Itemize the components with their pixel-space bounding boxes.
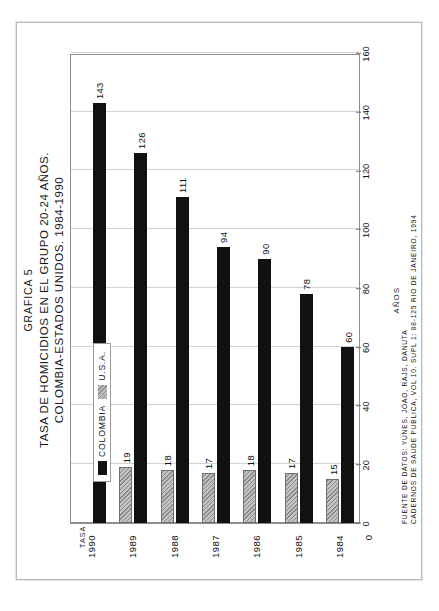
category-tick-1984: 1984 <box>334 535 345 558</box>
value-axis-ticks: 020406080100120140160 <box>361 54 391 524</box>
title-block: GRAFICA 5 TASA DE HOMICIDIOS EN EL GRUPO… <box>22 22 66 578</box>
tick-mark <box>356 288 361 289</box>
legend-label-colombia: COLOMBIA <box>97 405 107 457</box>
colombia-value-label-1990: 143 <box>94 82 105 99</box>
usa-bar-1987 <box>202 473 215 523</box>
chart-rotation-wrapper: GRAFICA 5 TASA DE HOMICIDIOS EN EL GRUPO… <box>16 22 420 578</box>
bar-group-1984: 1560 <box>320 55 361 523</box>
bar-group-1987: 1794 <box>195 55 236 523</box>
category-tick-1986: 1986 <box>251 535 262 558</box>
colombia-bar-1989 <box>134 153 147 523</box>
plot-area: 15601778189017941811119126143 <box>70 54 360 524</box>
value-tick-120: 120 <box>361 164 371 180</box>
colombia-value-label-1985: 78 <box>301 279 312 290</box>
tick-mark <box>356 171 361 172</box>
bar-group-1986: 1890 <box>237 55 278 523</box>
chart-title-line1: TASA DE HOMICIDIOS EN EL GRUPO 20-24 AÑO… <box>37 22 52 578</box>
value-tick-80: 80 <box>361 284 371 294</box>
figure: GRAFICA 5 TASA DE HOMICIDIOS EN EL GRUPO… <box>16 22 420 578</box>
category-tick-1990: 1990 <box>85 535 96 558</box>
tick-mark <box>356 229 361 230</box>
colombia-value-label-1989: 126 <box>135 132 146 149</box>
category-axis-ticks: 19841985198619871988198919900 <box>70 528 360 578</box>
colombia-bar-1988 <box>176 197 189 523</box>
usa-bar-1988 <box>161 470 174 523</box>
usa-bar-1984 <box>326 479 339 523</box>
usa-value-label-1986: 18 <box>244 455 255 466</box>
value-tick-140: 140 <box>361 105 371 121</box>
colombia-bar-1987 <box>217 247 230 523</box>
chart-title-line2: COLOMBIA-ESTADOS UNIDOS. 1984-1990 <box>52 22 67 578</box>
value-tick-20: 20 <box>361 460 371 470</box>
bar-group-1985: 1778 <box>278 55 319 523</box>
legend-item-usa: U.S.A. <box>97 351 107 399</box>
value-tick-100: 100 <box>361 222 371 238</box>
tick-mark <box>356 347 361 348</box>
source-line-2: CADERNOS DE SAUDE PUBLICA, VOL 10. SUPL … <box>410 214 418 524</box>
usa-value-label-1989: 19 <box>120 452 131 463</box>
gridline-160 <box>71 52 359 53</box>
colombia-value-label-1984: 60 <box>342 332 353 343</box>
legend-item-colombia: COLOMBIA <box>97 405 107 475</box>
colombia-value-label-1987: 94 <box>218 232 229 243</box>
source-note: FUENTE DE DATOS: YUNES, JOAO, RAJS, DANU… <box>401 214 418 524</box>
chart-legend: COLOMBIA U.S.A. <box>93 343 111 482</box>
tick-mark <box>356 464 361 465</box>
value-tick-0: 0 <box>361 521 371 526</box>
x-axis-title: AÑOS <box>392 22 401 578</box>
value-tick-160: 160 <box>361 46 371 62</box>
source-line-1: FUENTE DE DATOS: YUNES, JOAO, RAJS, DANU… <box>401 214 409 524</box>
value-tick-40: 40 <box>361 401 371 411</box>
bar-group-1988: 18111 <box>154 55 195 523</box>
usa-bar-1989 <box>119 467 132 523</box>
usa-bar-1985 <box>285 473 298 523</box>
usa-bar-1986 <box>243 470 256 523</box>
usa-value-label-1985: 17 <box>286 458 297 469</box>
colombia-value-label-1986: 90 <box>259 244 270 255</box>
category-tick-1989: 1989 <box>127 535 138 558</box>
category-tick-1988: 1988 <box>168 535 179 558</box>
colombia-bar-1984 <box>341 347 354 523</box>
category-tick-1985: 1985 <box>292 535 303 558</box>
tick-mark <box>356 53 361 54</box>
category-axis-origin-label: 0 <box>363 535 374 540</box>
tick-mark <box>356 112 361 113</box>
bar-series-container: 15601778189017941811119126143 <box>71 55 359 523</box>
graphic-number: GRAFICA 5 <box>22 22 34 578</box>
usa-value-label-1988: 18 <box>162 455 173 466</box>
usa-value-label-1987: 17 <box>203 458 214 469</box>
value-tick-60: 60 <box>361 343 371 353</box>
colombia-bar-1986 <box>258 259 271 523</box>
colombia-value-label-1988: 111 <box>177 178 188 193</box>
bar-group-1989: 19126 <box>112 55 153 523</box>
legend-swatch-colombia <box>98 461 107 475</box>
usa-value-label-1984: 15 <box>327 464 338 475</box>
tick-mark <box>356 406 361 407</box>
category-tick-1987: 1987 <box>210 535 221 558</box>
legend-label-usa: U.S.A. <box>97 351 107 381</box>
colombia-bar-1985 <box>300 294 313 523</box>
tick-mark <box>356 523 361 524</box>
legend-swatch-usa <box>98 385 107 399</box>
